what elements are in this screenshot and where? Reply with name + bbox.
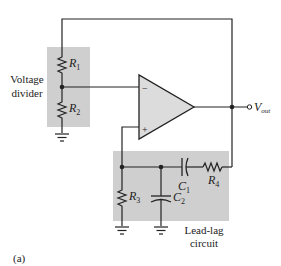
vout-label: Vout <box>254 100 271 115</box>
noninverting-input-sign: + <box>142 124 148 135</box>
voltage-divider-label-line1: Voltage <box>10 73 44 85</box>
wien-bridge-oscillator-diagram: R1 R2 Voltage divider − + Vout C1 R4 R3 <box>0 0 281 266</box>
lead-lag-junction-left <box>120 165 125 170</box>
ground-icon <box>115 227 129 234</box>
lead-lag-label-line2: circuit <box>190 237 218 249</box>
output-terminal-icon[interactable] <box>247 105 251 109</box>
ground-icon <box>55 134 69 141</box>
inverting-input-sign: − <box>142 83 148 94</box>
figure-tag: (a) <box>13 252 26 265</box>
lead-lag-label-line1: Lead-lag <box>184 224 224 236</box>
voltage-divider-label-line2: divider <box>11 87 42 99</box>
ground-icon <box>154 227 168 234</box>
